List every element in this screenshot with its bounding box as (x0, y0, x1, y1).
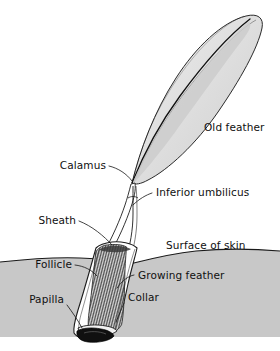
feather-diagram-canvas: Old feather Calamus Inferior umbilicus S… (0, 0, 280, 351)
label-inferior-umbilicus: Inferior umbilicus (156, 186, 249, 198)
old-feather-vane-shadow (133, 21, 250, 183)
label-calamus: Calamus (60, 159, 106, 171)
old-feather-shape (132, 15, 262, 184)
label-papilla: Papilla (29, 293, 64, 305)
label-growing-feather: Growing feather (138, 269, 225, 281)
label-collar: Collar (128, 291, 160, 303)
feather-diagram-figure: Old feather Calamus Inferior umbilicus S… (0, 0, 280, 351)
leader-calamus (109, 166, 132, 181)
label-old-feather: Old feather (204, 121, 265, 133)
label-sheath: Sheath (38, 214, 76, 226)
label-surface-of-skin: Surface of skin (166, 239, 245, 251)
leader-sheath (79, 221, 112, 245)
leader-inferior-umbilicus (133, 193, 152, 205)
label-follicle: Follicle (35, 258, 72, 270)
